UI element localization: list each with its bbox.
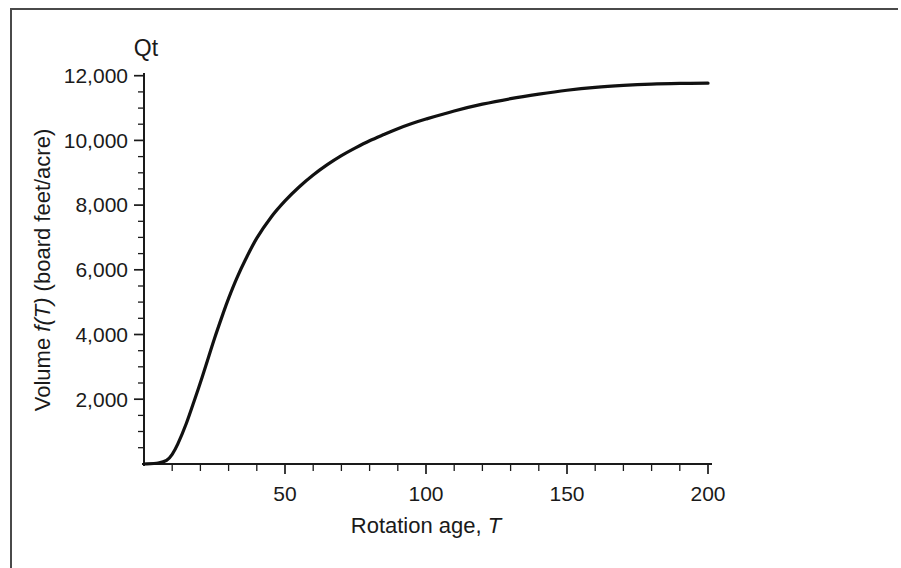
chart-corner-label: Qt [134, 35, 159, 61]
y-axis-title-suffix: (board feet/acre) [30, 129, 55, 298]
y-tick-label-2000: 2,000 [75, 388, 128, 411]
x-axis-title: Rotation age, T [351, 513, 503, 538]
y-axis-title-prefix: Volume [30, 332, 55, 412]
x-axis-title-symbol: T [488, 513, 503, 538]
y-tick-label-12000: 12,000 [64, 64, 128, 87]
y-tick-label-8000: 8,000 [75, 193, 128, 216]
x-tick-label-150: 150 [549, 482, 584, 505]
x-tick-label-100: 100 [408, 482, 443, 505]
y-tick-label-10000: 10,000 [64, 129, 128, 152]
x-axis-major-ticks [285, 464, 708, 474]
y-tick-label-6000: 6,000 [75, 258, 128, 281]
volume-growth-curve [144, 83, 708, 464]
y-tick-label-4000: 4,000 [75, 323, 128, 346]
y-axis-title-symbol: f(T) [30, 298, 55, 332]
x-tick-label-50: 50 [273, 482, 296, 505]
y-axis-title: Volume f(T) (board feet/acre) [30, 129, 55, 411]
x-tick-label-200: 200 [690, 482, 725, 505]
x-axis-title-prefix: Rotation age, [351, 513, 488, 538]
